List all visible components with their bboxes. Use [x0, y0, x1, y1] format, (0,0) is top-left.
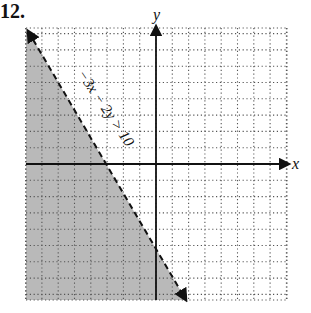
inequality-graph: x y −3x − 2y > 10 — [0, 0, 311, 313]
y-axis-label: y — [151, 6, 161, 24]
x-axis-label: x — [291, 155, 299, 172]
